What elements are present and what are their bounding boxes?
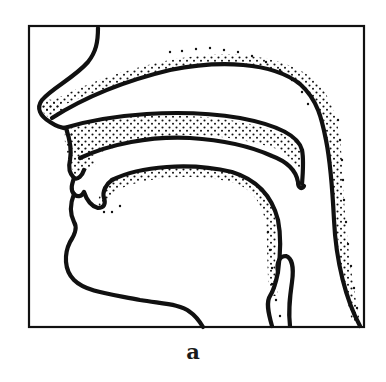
anatomy-outlines [39, 28, 360, 327]
nasal-cavity-roof [52, 64, 360, 326]
figure-caption: a [0, 341, 386, 362]
vocal-tract-diagram [0, 0, 386, 382]
chin-neck [66, 194, 203, 327]
